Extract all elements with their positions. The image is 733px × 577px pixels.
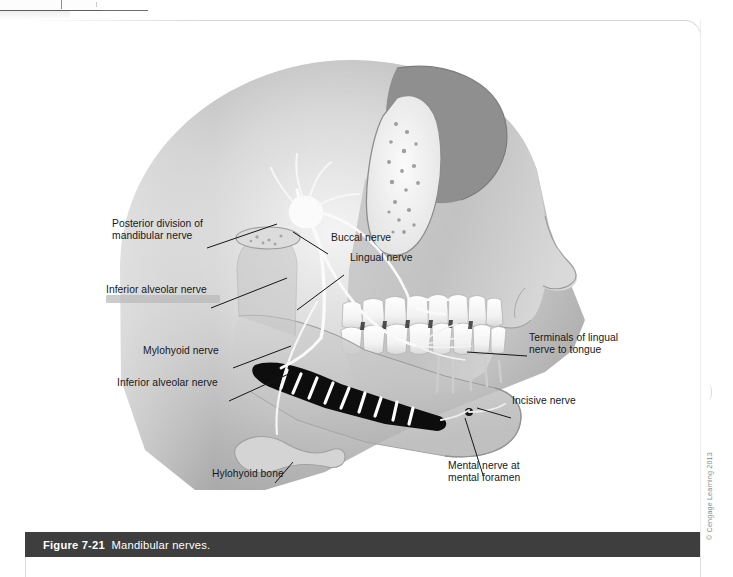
label-inferior-alveolar-nerve-upper: Inferior alveolar nerve [106,284,207,296]
toolbar-baseline-rule [101,10,148,11]
label-lingual-nerve: Lingual nerve [350,252,412,264]
figure-title: Mandibular nerves. [112,539,211,551]
mandibular-foramen-ellipse [236,227,300,249]
figure-number: Figure 7-21 [43,539,105,551]
screenshot-root: Posterior division of mandibular nerve I… [0,0,733,577]
label-mental-nerve-at-mental-foramen: Mental nerve at mental foramen [448,460,520,485]
label-hylohyoid-bone: Hylohyoid bone [212,468,284,480]
toolbar-divider-secondary [96,2,97,7]
label-mylohyoid-nerve: Mylohyoid nerve [143,345,219,357]
figure-illustration [25,20,701,532]
label-incisive-nerve: Incisive nerve [512,395,576,407]
toolbar-divider [61,0,62,9]
figure-caption: Figure 7-21 Mandibular nerves. [25,539,210,551]
copyright-notice: © Cengage Learning 2013 [705,529,733,540]
label-buccal-nerve: Buccal nerve [331,232,391,244]
figure-caption-bar: Figure 7-21 Mandibular nerves. [25,532,700,557]
left-fade-mask [25,20,215,532]
app-toolbar-fragment[interactable] [0,0,101,11]
toolbar-shadow-wash [0,11,70,20]
label-posterior-division-mandibular-nerve: Posterior division of mandibular nerve [112,218,203,243]
page-curl-artifact [707,385,712,400]
label-terminals-of-lingual-nerve-to-tongue: Terminals of lingual nerve to tongue [529,332,618,357]
label-inferior-alveolar-nerve-lower: Inferior alveolar nerve [117,377,218,389]
skull-anatomy-svg [25,20,701,532]
